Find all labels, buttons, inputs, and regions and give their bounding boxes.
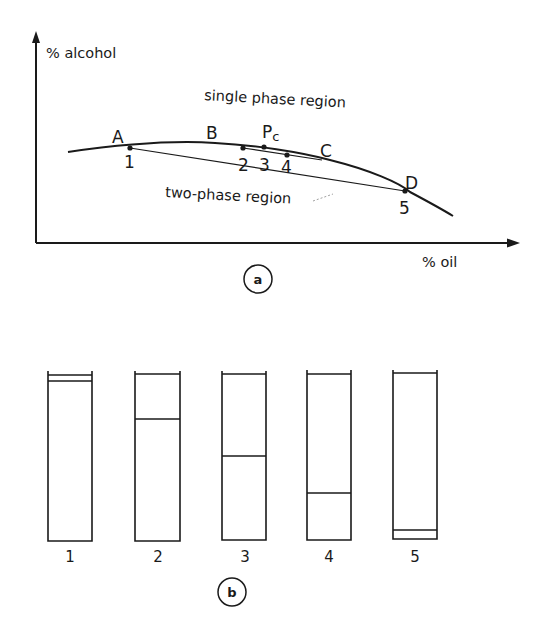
label-Pc-sub: c [272, 129, 279, 144]
point-1-dot [127, 145, 132, 150]
point-2-dot [240, 145, 245, 150]
label-5: 5 [399, 198, 410, 218]
label-Pc-main: P [262, 122, 272, 142]
y-axis-arrow-icon [32, 31, 40, 43]
panel-b: 1 2 3 4 5 b [48, 370, 437, 606]
label-3: 3 [259, 155, 270, 175]
tube-2: 2 [135, 371, 180, 566]
label-B: B [206, 123, 218, 143]
panel-b-label: b [227, 585, 236, 600]
tube-4-label: 4 [324, 548, 334, 566]
tube-5-label: 5 [410, 548, 420, 566]
tube-1-label: 1 [65, 548, 75, 566]
panel-a-label: a [254, 272, 263, 287]
tube-3-label: 3 [240, 548, 250, 566]
label-2: 2 [238, 155, 249, 175]
tube-4: 4 [307, 370, 351, 566]
tube-5: 5 [393, 370, 437, 566]
tube-1: 1 [48, 371, 92, 566]
label-A: A [112, 127, 124, 147]
two-phase-region-label: two-phase region [165, 184, 292, 207]
x-axis-label: % oil [422, 254, 457, 270]
y-axis-label: % alcohol [46, 45, 116, 61]
x-axis-arrow-icon [507, 239, 520, 248]
label-Pc: Pc [262, 122, 279, 144]
tube-2-label: 2 [153, 548, 163, 566]
label-4: 4 [281, 157, 292, 177]
panel-a: % alcohol % oil single phase region two-… [32, 31, 520, 293]
label-D: D [405, 173, 418, 193]
label-1: 1 [124, 152, 135, 172]
stray-mark [313, 194, 333, 201]
single-phase-region-label: single phase region [204, 87, 346, 110]
phase-diagram-figure: % alcohol % oil single phase region two-… [0, 0, 543, 644]
label-C: C [320, 141, 332, 161]
tube-3: 3 [222, 371, 266, 566]
point-pc-dot [261, 144, 266, 149]
